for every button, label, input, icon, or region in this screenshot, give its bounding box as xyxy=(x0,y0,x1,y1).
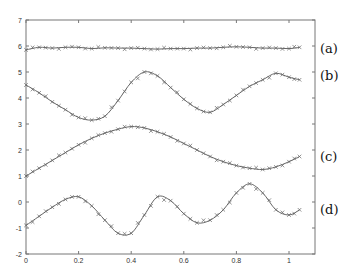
x-marker xyxy=(77,143,81,147)
x-marker xyxy=(37,215,41,219)
y-tick-label: 5 xyxy=(18,69,22,76)
x-marker xyxy=(37,91,41,95)
series-group xyxy=(24,44,301,236)
x-marker xyxy=(254,187,258,191)
series-b xyxy=(24,70,301,122)
x-marker xyxy=(169,199,173,203)
x-marker xyxy=(143,213,147,217)
x-marker xyxy=(123,90,127,94)
x-marker xyxy=(235,191,239,195)
x-marker xyxy=(90,137,94,141)
y-tick-label: 7 xyxy=(18,17,22,24)
curve-label-b: (b) xyxy=(320,68,338,83)
x-marker xyxy=(208,155,212,159)
x-marker xyxy=(267,76,271,80)
x-marker xyxy=(51,205,55,209)
x-marker xyxy=(274,208,278,212)
curve-label-c: (c) xyxy=(320,149,337,164)
line-chart: -2-10123456700.20.40.60.81 (a)(b)(c)(d) xyxy=(0,0,349,274)
x-marker xyxy=(215,46,219,50)
curve-label-a: (a) xyxy=(320,41,338,56)
x-marker xyxy=(64,151,68,155)
x-marker xyxy=(129,81,133,85)
x-marker xyxy=(136,46,140,50)
x-marker xyxy=(195,148,199,152)
x-marker xyxy=(156,195,160,199)
plot-axes: -2-10123456700.20.40.60.81 xyxy=(16,17,315,265)
x-marker xyxy=(298,208,302,212)
x-marker xyxy=(116,99,120,103)
x-tick-label: 0.4 xyxy=(126,257,136,264)
y-tick-label: 6 xyxy=(18,43,22,50)
x-marker xyxy=(70,45,74,49)
x-marker xyxy=(189,217,193,221)
x-marker xyxy=(182,142,186,146)
x-marker xyxy=(235,94,239,98)
x-marker xyxy=(129,231,133,235)
x-tick-label: 0.6 xyxy=(179,257,189,264)
y-tick-label: 1 xyxy=(18,173,22,180)
series-d xyxy=(24,182,301,236)
x-marker xyxy=(261,191,265,195)
x-marker xyxy=(169,135,173,139)
y-tick-label: 0 xyxy=(18,199,22,206)
x-marker xyxy=(116,231,120,235)
series-line xyxy=(26,72,300,120)
x-marker xyxy=(37,166,41,170)
x-marker xyxy=(221,208,225,212)
x-marker xyxy=(261,78,265,82)
x-marker xyxy=(64,108,68,112)
x-marker xyxy=(267,46,271,50)
x-marker xyxy=(208,218,212,222)
y-tick-label: 4 xyxy=(18,95,22,102)
x-tick-label: 1 xyxy=(287,257,291,264)
y-tick-label: 2 xyxy=(18,147,22,154)
series-line xyxy=(26,184,300,235)
curve-labels: (a)(b)(c)(d) xyxy=(320,41,338,217)
series-a xyxy=(24,44,301,52)
y-tick-label: 3 xyxy=(18,121,22,128)
x-marker xyxy=(90,204,94,208)
x-marker xyxy=(149,48,153,52)
x-marker xyxy=(182,98,186,102)
curve-label-d: (d) xyxy=(320,202,338,217)
x-marker xyxy=(162,198,166,202)
y-tick-label: -1 xyxy=(16,225,22,232)
x-marker xyxy=(70,147,74,151)
x-tick-label: 0.2 xyxy=(74,257,84,264)
x-marker xyxy=(64,198,68,202)
x-marker xyxy=(202,151,206,155)
x-marker xyxy=(221,103,225,107)
x-marker xyxy=(195,107,199,111)
y-tick-label: -2 xyxy=(16,251,22,258)
x-marker xyxy=(51,100,55,104)
x-marker xyxy=(202,219,206,223)
x-marker xyxy=(136,77,140,81)
x-marker xyxy=(248,85,252,89)
x-marker xyxy=(103,218,107,222)
x-marker xyxy=(298,155,302,159)
series-c xyxy=(24,125,301,178)
x-marker xyxy=(103,114,107,118)
x-marker xyxy=(281,47,285,51)
x-marker xyxy=(156,74,160,78)
x-marker xyxy=(287,160,291,164)
x-marker xyxy=(169,86,173,90)
x-marker xyxy=(57,104,61,108)
x-marker xyxy=(182,212,186,216)
x-tick-label: 0 xyxy=(24,257,28,264)
x-marker xyxy=(51,159,55,163)
x-marker xyxy=(202,46,206,50)
x-tick-label: 0.8 xyxy=(232,257,242,264)
x-marker xyxy=(175,205,179,209)
